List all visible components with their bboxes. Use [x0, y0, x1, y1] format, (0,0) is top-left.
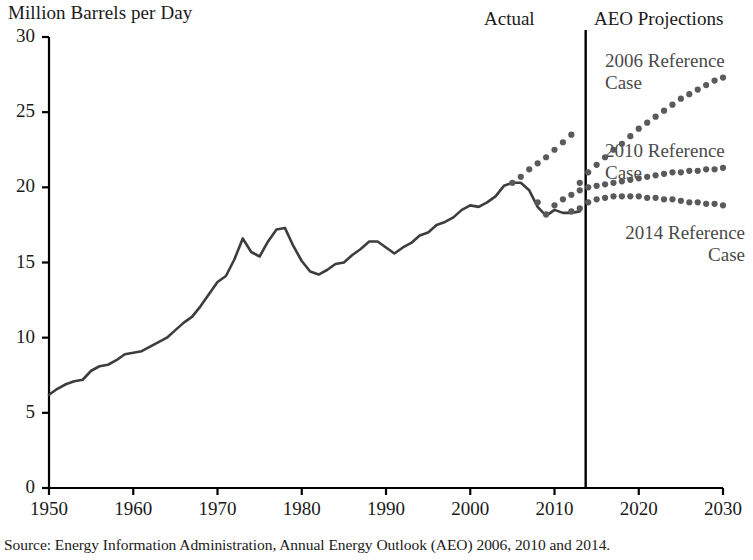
projection-dot [678, 169, 684, 175]
plot-area [0, 0, 753, 560]
y-tick-label: 25 [1, 100, 35, 122]
projection-dot [551, 147, 557, 153]
projection-dot [678, 198, 684, 204]
projection-dot [619, 193, 625, 199]
projection-dot [577, 205, 583, 211]
projection-dot [686, 168, 692, 174]
projection-dot [695, 168, 701, 174]
series-2010-reference-case [535, 165, 727, 218]
projection-dot [619, 178, 625, 184]
y-tick-label: 10 [1, 326, 35, 348]
projection-dot [602, 154, 608, 160]
projection-dot [678, 96, 684, 102]
projection-dot [509, 180, 515, 186]
source-note: Source: Energy Information Administratio… [4, 536, 610, 554]
projection-dot [585, 199, 591, 205]
projection-dot [644, 195, 650, 201]
chart-figure: Million Barrels per Day Actual AEO Proje… [0, 0, 753, 560]
projection-dot [568, 208, 574, 214]
projection-dot [686, 199, 692, 205]
projection-dot [560, 139, 566, 145]
projection-dot [551, 202, 557, 208]
projection-dot [560, 196, 566, 202]
projection-dot [669, 196, 675, 202]
projection-dot [669, 169, 675, 175]
series-2006-reference-case-early [509, 132, 574, 186]
y-tick-label: 30 [1, 25, 35, 47]
y-tick-label: 15 [1, 251, 35, 273]
projection-dot [518, 174, 524, 180]
projection-dot [594, 162, 600, 168]
projection-dot [720, 202, 726, 208]
projection-dot [653, 172, 659, 178]
projection-dot [594, 183, 600, 189]
projection-dot [577, 187, 583, 193]
projection-dot [669, 102, 675, 108]
projection-dot [627, 133, 633, 139]
projection-dot [720, 74, 726, 80]
projection-dot [720, 165, 726, 171]
projection-dot [602, 181, 608, 187]
projection-dot [644, 174, 650, 180]
x-tick-label: 2030 [693, 498, 753, 520]
x-tick-label: 1960 [103, 498, 163, 520]
x-tick-label: 2000 [440, 498, 500, 520]
projection-dot [568, 192, 574, 198]
projection-dot [602, 195, 608, 201]
projection-dot [610, 193, 616, 199]
projection-dot [636, 126, 642, 132]
projection-dot [661, 196, 667, 202]
projection-dot [711, 201, 717, 207]
projection-dot [526, 166, 532, 172]
projection-dot [636, 193, 642, 199]
x-tick-label: 1980 [272, 498, 332, 520]
projection-dot [711, 166, 717, 172]
projection-dot [585, 169, 591, 175]
series-actual [49, 183, 580, 395]
projection-dot [695, 199, 701, 205]
projection-dot [703, 82, 709, 88]
projection-dot [543, 154, 549, 160]
axes [42, 37, 723, 495]
projection-dot [610, 180, 616, 186]
projection-dot [711, 78, 717, 84]
x-tick-label: 2010 [525, 498, 585, 520]
projection-dot [653, 195, 659, 201]
x-tick-label: 1990 [356, 498, 416, 520]
projection-dot [636, 175, 642, 181]
projection-dot [695, 87, 701, 93]
x-tick-label: 1970 [188, 498, 248, 520]
y-tick-label: 0 [1, 476, 35, 498]
actual-line-path [49, 183, 580, 395]
projection-dot [644, 120, 650, 126]
projection-dot [543, 211, 549, 217]
projection-dot [703, 201, 709, 207]
x-tick-label: 1950 [19, 498, 79, 520]
y-tick-label: 20 [1, 175, 35, 197]
projection-dot [535, 160, 541, 166]
projection-dot [535, 199, 541, 205]
projection-dot [594, 196, 600, 202]
y-tick-label: 5 [1, 401, 35, 423]
projection-dot [585, 184, 591, 190]
projection-dot [627, 193, 633, 199]
projection-dot [619, 141, 625, 147]
projection-dot [610, 147, 616, 153]
projection-dot [568, 132, 574, 138]
x-tick-label: 2020 [609, 498, 669, 520]
series-2014-reference-case [568, 193, 726, 214]
projection-dot [627, 177, 633, 183]
projection-dot [653, 114, 659, 120]
projection-dot [661, 171, 667, 177]
projection-dot [686, 91, 692, 97]
projection-dot [703, 166, 709, 172]
projection-dot [577, 180, 583, 186]
projection-dot [661, 108, 667, 114]
